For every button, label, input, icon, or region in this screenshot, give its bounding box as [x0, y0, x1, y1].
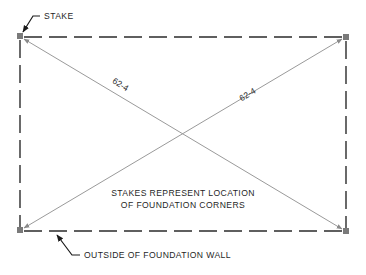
- note-line-2: OF FOUNDATION CORNERS: [121, 200, 245, 210]
- stake-bottom-left: [17, 227, 23, 233]
- wall-label: OUTSIDE OF FOUNDATION WALL: [84, 250, 231, 260]
- stake-bottom-right: [343, 228, 349, 234]
- stake-leader-line: [23, 16, 40, 32]
- note-line-1: STAKES REPRESENT LOCATION: [111, 188, 255, 198]
- stake-callout: STAKE: [23, 11, 74, 32]
- stake-top-right: [343, 34, 349, 40]
- foundation-layout-diagram: 62-4 62-4 STAKE STAKES REPRESENT LOCATIO…: [0, 0, 366, 275]
- stake-label: STAKE: [44, 11, 74, 21]
- wall-leader-line: [57, 235, 80, 255]
- wall-callout: OUTSIDE OF FOUNDATION WALL: [57, 235, 231, 260]
- diagonal-left-dimension: 62-4: [111, 76, 131, 94]
- diagonal-right-dimension: 62-4: [238, 86, 258, 103]
- stake-top-left: [17, 33, 23, 39]
- center-note: STAKES REPRESENT LOCATION OF FOUNDATION …: [111, 188, 255, 210]
